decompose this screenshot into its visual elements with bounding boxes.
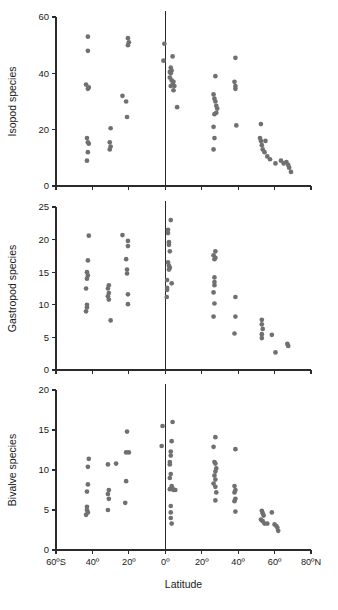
y-tick-label: 20 xyxy=(38,234,49,245)
data-point xyxy=(269,510,274,515)
data-point xyxy=(125,429,130,434)
data-point xyxy=(85,305,90,310)
data-point xyxy=(106,297,111,302)
data-point xyxy=(85,276,90,281)
y-tick-label: 15 xyxy=(38,424,49,435)
data-point xyxy=(126,43,131,48)
data-point xyxy=(234,123,239,128)
data-point xyxy=(259,322,264,327)
data-point xyxy=(161,58,166,63)
data-point xyxy=(106,492,111,497)
x-tick-label: 40º xyxy=(86,557,100,567)
data-point xyxy=(125,271,130,276)
data-point xyxy=(233,295,238,300)
data-point xyxy=(169,439,174,444)
y-tick-label: 60 xyxy=(38,11,49,22)
data-point xyxy=(168,453,173,458)
data-point xyxy=(269,332,274,337)
data-point xyxy=(85,489,90,494)
data-point xyxy=(213,435,218,440)
isopod-plot-area: 0204060Isopod species xyxy=(0,0,338,200)
data-point xyxy=(212,112,217,117)
panel-isopod: 0204060Isopod species xyxy=(0,0,338,200)
data-point xyxy=(165,278,170,283)
data-point xyxy=(160,424,165,429)
data-point xyxy=(259,336,264,341)
data-point xyxy=(86,86,91,91)
x-tick-label: 0º xyxy=(161,557,170,567)
data-point xyxy=(124,479,129,484)
data-point xyxy=(169,521,174,526)
data-point xyxy=(106,286,111,291)
data-point xyxy=(233,55,238,60)
data-point xyxy=(214,490,219,495)
y-tick-label: 10 xyxy=(38,464,49,475)
data-point xyxy=(213,461,218,466)
x-axis-title: Latitude xyxy=(165,578,203,590)
data-point xyxy=(175,105,180,110)
y-tick-label: 15 xyxy=(38,267,49,278)
data-point xyxy=(106,488,111,493)
data-point xyxy=(232,484,237,489)
data-point xyxy=(213,99,218,104)
data-point xyxy=(273,161,278,166)
data-point xyxy=(265,521,270,526)
scatter-figure-latitudinal-diversity: 0204060Isopod species 0510152025Gastropo… xyxy=(0,0,338,610)
data-point xyxy=(106,496,111,501)
data-point xyxy=(168,504,173,509)
data-point xyxy=(84,286,89,291)
data-point xyxy=(165,287,170,292)
x-tick-label: 60ºS xyxy=(46,557,66,567)
y-tick-label: 5 xyxy=(44,504,49,515)
x-tick-label: 40º xyxy=(231,557,245,567)
data-point xyxy=(233,314,238,319)
data-point xyxy=(126,292,131,297)
data-point xyxy=(84,512,89,517)
data-point xyxy=(126,239,131,244)
data-point xyxy=(108,126,113,131)
data-point xyxy=(124,450,129,455)
data-point xyxy=(215,106,220,111)
data-point xyxy=(211,92,216,97)
y-axis-title: Bivalve species xyxy=(6,434,18,506)
data-point xyxy=(106,462,111,467)
data-point xyxy=(263,139,268,144)
data-point xyxy=(261,513,266,518)
data-point xyxy=(259,317,264,322)
y-tick-label: 0 xyxy=(44,180,49,191)
data-point xyxy=(167,242,172,247)
data-point xyxy=(212,136,217,141)
data-point xyxy=(126,36,131,41)
data-point xyxy=(162,41,167,46)
data-point xyxy=(259,122,264,127)
x-tick-label: 20º xyxy=(122,557,136,567)
data-point xyxy=(213,477,218,482)
data-point xyxy=(211,290,216,295)
data-point xyxy=(168,510,173,515)
y-tick-label: 10 xyxy=(38,299,49,310)
data-point xyxy=(168,449,173,454)
data-point xyxy=(167,487,172,492)
data-point xyxy=(159,444,164,449)
y-tick-label: 5 xyxy=(44,332,49,343)
y-tick-label: 0 xyxy=(44,364,49,375)
data-point xyxy=(213,469,218,474)
data-point xyxy=(114,461,119,466)
data-point xyxy=(232,79,237,84)
panel-bivalve: 0510152060ºS40º20º0º20º40º60º80ºNBivalve… xyxy=(0,378,338,610)
data-point xyxy=(167,476,172,481)
data-point xyxy=(84,309,89,314)
data-point xyxy=(120,94,125,99)
data-point xyxy=(126,244,131,249)
data-point xyxy=(171,88,176,93)
data-point xyxy=(166,231,171,236)
data-point xyxy=(287,165,292,170)
data-point xyxy=(213,74,218,79)
data-point xyxy=(262,150,267,155)
y-axis-title: Isopod species xyxy=(6,66,18,136)
data-point xyxy=(286,344,291,349)
panel-gastropod: 0510152025Gastropod species xyxy=(0,192,338,387)
data-point xyxy=(168,472,173,477)
data-point xyxy=(211,444,216,449)
gastropod-plot-area: 0510152025Gastropod species xyxy=(0,192,338,387)
